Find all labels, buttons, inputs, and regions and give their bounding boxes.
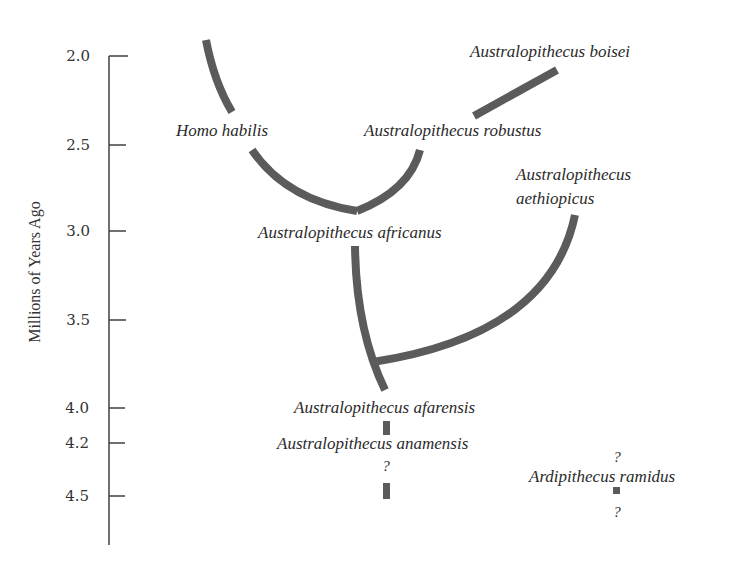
tick-label-2-0: 2.0 bbox=[66, 47, 90, 65]
label-boisei: Australopithecus boisei bbox=[469, 42, 630, 61]
label-afarensis: Australopithecus afarensis bbox=[293, 398, 476, 417]
afarensis-anamensis-bar bbox=[383, 421, 390, 435]
label-homo-habilis: Homo habilis bbox=[175, 121, 268, 140]
branches bbox=[206, 40, 575, 390]
species-labels: Australopithecus boisei Homo habilis Aus… bbox=[175, 42, 676, 486]
label-africanus: Australopithecus africanus bbox=[257, 223, 442, 242]
tick-label-3-5: 3.5 bbox=[66, 311, 90, 329]
label-ramidus: Ardipithecus ramidus bbox=[528, 467, 676, 486]
tick-label-4-5: 4.5 bbox=[65, 487, 89, 505]
question-mark-anamensis: ? bbox=[382, 458, 390, 474]
anamensis-lower-bar bbox=[383, 483, 390, 499]
label-aethiopicus-line2: aethiopicus bbox=[516, 189, 595, 208]
tick-label-4-2: 4.2 bbox=[65, 434, 89, 452]
tick-label-4-0: 4.0 bbox=[65, 399, 89, 417]
question-mark-ramidus-below: ? bbox=[613, 504, 621, 520]
label-robustus: Australopithecus robustus bbox=[363, 121, 542, 140]
tick-label-3-0: 3.0 bbox=[66, 222, 90, 240]
branch-homo-habilis-lower bbox=[252, 150, 357, 211]
tick-label-2-5: 2.5 bbox=[66, 136, 90, 154]
label-aethiopicus-line1: Australopithecus bbox=[515, 165, 632, 184]
axis-title: Millions of Years Ago bbox=[26, 201, 44, 342]
ramidus-marker bbox=[613, 487, 620, 494]
branch-africanus bbox=[355, 246, 385, 390]
label-anamensis: Australopithecus anamensis bbox=[276, 434, 469, 453]
question-mark-ramidus-above: ? bbox=[613, 449, 621, 465]
hominid-phylogeny-diagram: 2.0 2.5 3.0 3.5 4.0 4.2 4.5 Millions of … bbox=[0, 0, 739, 562]
branch-boisei bbox=[474, 70, 557, 116]
time-axis: 2.0 2.5 3.0 3.5 4.0 4.2 4.5 Millions of … bbox=[26, 47, 128, 545]
branch-robustus bbox=[357, 150, 420, 211]
branch-homo-habilis-upper bbox=[206, 40, 232, 112]
